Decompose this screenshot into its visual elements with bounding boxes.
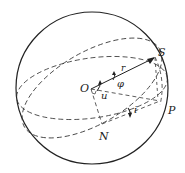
label-p: P [167, 104, 176, 117]
right-angle-marker [92, 91, 96, 94]
label-n: N [98, 130, 109, 143]
label-r: r [121, 63, 126, 73]
label-phi: φ [117, 78, 124, 89]
label-u: u [101, 90, 107, 101]
arrowhead-phi-icon [112, 71, 116, 75]
arrowhead-i-icon [128, 113, 132, 118]
label-i: i [134, 104, 137, 115]
label-o: O [80, 82, 89, 95]
celestial-sphere-diagram: S r O φ u P i N [0, 0, 185, 173]
label-s: S [158, 46, 166, 59]
arrowhead-icon [147, 57, 155, 64]
